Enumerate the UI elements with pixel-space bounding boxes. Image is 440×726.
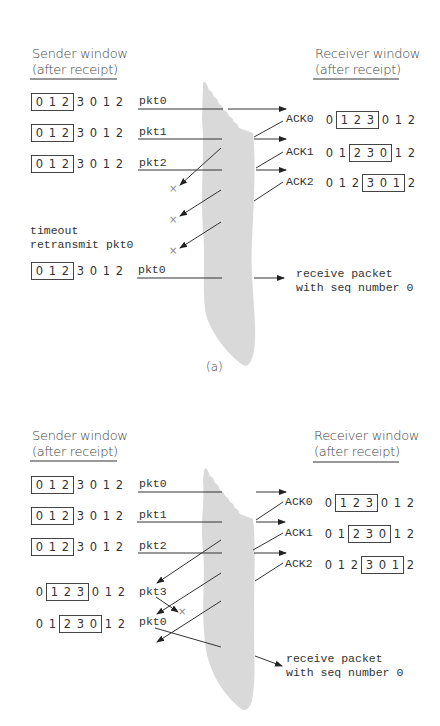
window-box: 301: [362, 174, 405, 192]
window-box: 012: [31, 262, 74, 280]
window-box: 230: [59, 615, 102, 633]
receiver-header-line1: Receiver window: [314, 428, 419, 444]
ack-label: ACK0: [285, 495, 313, 509]
lost-marker: ×: [178, 606, 186, 617]
channel-cloud-b: [202, 468, 255, 710]
sender-window-header: Sender window (after receipt): [32, 428, 128, 460]
sender-header-line2: (after receipt): [32, 62, 128, 78]
receiver-window-header: Receiver window (after receipt): [315, 46, 420, 78]
window-box: 230: [349, 144, 392, 162]
ack-label: ACK2: [286, 175, 314, 189]
packet-label: pkt0: [139, 477, 167, 491]
timeout-label: timeout: [30, 224, 78, 238]
sender-header-line2: (after receipt): [32, 444, 128, 460]
packet-label: pkt2: [139, 156, 167, 170]
panel-caption: (a): [206, 360, 223, 374]
receiver-window-row: 0123012: [323, 144, 418, 162]
receiver-window-row: 0123012: [322, 556, 417, 574]
receiver-window-row: 0123012: [322, 494, 417, 512]
sender-window-row: 0123012: [31, 155, 126, 173]
sender-window-row: 0123012: [31, 93, 126, 111]
receive-note-line2: with seq number 0: [296, 281, 413, 295]
sender-window-row: 0123012: [33, 615, 128, 633]
packet-label: pkt1: [139, 508, 167, 522]
receiver-window-header: Receiver window (after receipt): [314, 428, 419, 460]
window-box: 301: [361, 556, 404, 574]
receiver-header-line2: (after receipt): [314, 444, 419, 460]
receiver-window-row: 0123012: [323, 174, 418, 192]
sender-window-row: 0123012: [31, 538, 126, 556]
sender-window-row: 0123012: [31, 507, 126, 525]
window-box: 123: [46, 583, 89, 601]
packet-label: pkt0: [139, 94, 167, 108]
receiver-window-row: 0123012: [322, 525, 417, 543]
packet-label: pkt0: [139, 615, 167, 629]
sender-window-header: Sender window (after receipt): [32, 46, 128, 78]
receiver-window-row: 0123012: [323, 111, 418, 129]
sender-window-row: 0123012: [31, 476, 126, 494]
window-box: 123: [336, 111, 379, 129]
sender-window-row: 0123012: [33, 583, 128, 601]
retransmit-label: retransmit pkt0: [30, 238, 134, 252]
ack-label: ACK2: [285, 557, 313, 571]
ack-label: ACK1: [286, 145, 314, 159]
window-box: 012: [31, 155, 74, 173]
sender-header-line1: Sender window: [32, 428, 128, 444]
packet-label: pkt0: [138, 263, 166, 277]
ack-label: ACK1: [285, 526, 313, 540]
window-box: 230: [348, 525, 391, 543]
ack-label: ACK0: [286, 112, 314, 126]
receive-note-line1: receive packet: [286, 652, 383, 666]
receiver-header-line2: (after receipt): [315, 62, 420, 78]
packet-label: pkt2: [139, 539, 167, 553]
receive-note-line2: with seq number 0: [286, 666, 403, 680]
lost-marker: ×: [169, 183, 177, 194]
receiver-header-line1: Receiver window: [315, 46, 420, 62]
sender-window-row: 0123012: [31, 124, 126, 142]
window-box: 012: [31, 124, 74, 142]
packet-label: pkt1: [139, 125, 167, 139]
lost-marker: ×: [169, 245, 177, 256]
packet-label: pkt3: [139, 585, 167, 599]
window-box: 012: [31, 476, 74, 494]
sender-header-line1: Sender window: [32, 46, 128, 62]
receive-note-line1: receive packet: [296, 267, 393, 281]
window-box: 012: [31, 507, 74, 525]
window-box: 123: [335, 494, 378, 512]
window-box: 012: [31, 93, 74, 111]
channel-cloud-a: [202, 82, 255, 366]
lost-marker: ×: [169, 214, 177, 225]
window-box: 012: [31, 538, 74, 556]
sender-window-row: 0123012: [31, 262, 126, 280]
